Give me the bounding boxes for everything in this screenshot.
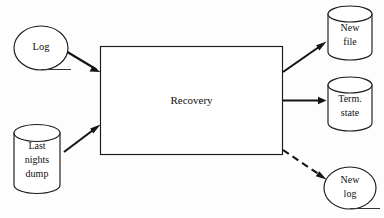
input-node-log[interactable]: Log <box>14 26 71 70</box>
output-node-term-state[interactable]: Term. state <box>328 77 372 131</box>
output-node-new-log-label-line2: log <box>344 188 357 199</box>
output-node-new-log-label-line1: New <box>341 174 361 185</box>
input-node-last-nights-dump-top <box>14 125 60 142</box>
connector-recovery-to-new-file-line <box>283 45 323 73</box>
connector-recovery-to-term-state <box>283 97 327 104</box>
output-node-new-file-label-line2: file <box>343 36 357 47</box>
output-node-new-file-label-line1: New <box>341 22 361 33</box>
input-node-last-nights-dump[interactable]: Last nights dump <box>14 125 60 194</box>
output-node-new-file-top <box>328 6 372 22</box>
connector-dump-to-recovery <box>64 125 101 153</box>
output-node-new-file[interactable]: New file <box>328 6 372 60</box>
connector-log-to-recovery <box>64 50 101 72</box>
process-node-recovery-label: Recovery <box>170 94 213 106</box>
output-node-term-state-label-line1: Term. <box>338 93 361 104</box>
connector-dump-to-recovery-line <box>64 128 97 153</box>
input-node-last-nights-dump-label-line3: dump <box>26 168 49 179</box>
recovery-flow-diagram: Recovery Log Last nights dump New file <box>0 0 384 218</box>
connector-recovery-to-new-file <box>283 42 327 73</box>
connector-recovery-to-new-log <box>283 150 327 180</box>
output-node-new-log[interactable]: New log <box>324 167 380 209</box>
output-node-term-state-top <box>328 77 372 93</box>
output-node-term-state-label-line2: state <box>341 107 360 118</box>
connector-recovery-to-term-state-arrowhead <box>318 97 327 104</box>
connector-log-to-recovery-line <box>64 50 97 70</box>
diagram-canvas: Recovery Log Last nights dump New file <box>0 0 384 218</box>
input-node-last-nights-dump-label-line2: nights <box>25 154 50 165</box>
input-node-last-nights-dump-label-line1: Last <box>28 140 45 151</box>
input-node-log-label: Log <box>33 41 51 52</box>
process-node-recovery[interactable]: Recovery <box>101 47 283 155</box>
connector-recovery-to-new-log-line <box>283 150 322 176</box>
